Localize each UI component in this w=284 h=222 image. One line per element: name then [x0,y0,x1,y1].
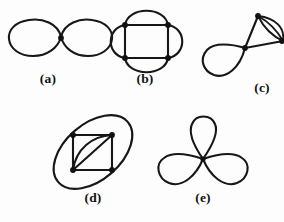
figure-d-vertex-bottom-left [70,167,76,173]
figure-drawing-canvas [0,0,284,222]
figure-b-vertex-bottom-right [165,55,171,61]
figure-d-caption: (d) [78,190,108,206]
figure-b-vertex-bottom-left [122,55,128,61]
figure-c-center-vertex [242,45,248,51]
figure-d-vertex-bottom-right [109,167,115,173]
figure-d-vertex-top-left [70,132,76,138]
figure-e-left-petal [158,154,203,184]
figure-b-vertex-top-right [165,22,171,28]
figure-c-top-vertex [255,13,261,19]
figure-a-left-loop [9,20,61,56]
figure-c-loop [203,45,245,76]
figure-c-parallel-arc-outer [258,16,283,41]
figure-a-caption: (a) [33,71,63,87]
figure-b-arc-top [125,11,168,25]
figure-a-right-loop [61,20,112,56]
figure-c-caption: (c) [247,80,277,96]
figure-b-arc-left [111,25,125,58]
figure-b-vertex-top-left [122,22,128,28]
figure-c-graph [203,13,284,76]
figure-a-graph [9,20,112,56]
figure-b-caption: (b) [130,71,160,87]
figure-b-arc-right [168,25,182,58]
figure-c-edge-center-right [245,41,283,48]
figure-e-top-petal [191,117,216,160]
figure-c-edge-center-top [245,16,258,48]
figure-d-vertex-top-right [109,132,115,138]
figure-b-graph [111,11,183,73]
figure-d-graph [40,101,146,204]
figure-e-right-petal [203,154,248,184]
figure-plate: (a) (b) (c) (d) (e) [0,0,284,222]
figure-e-caption: (e) [188,190,218,206]
figure-a-center-vertex [58,35,64,41]
figure-e-graph [158,117,247,185]
figure-e-center-vertex [200,156,205,161]
